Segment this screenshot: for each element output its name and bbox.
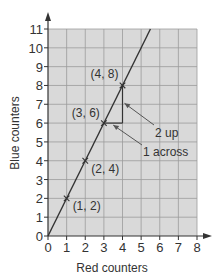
y-tick-label: 9: [36, 60, 43, 75]
point-label: (2, 4): [91, 162, 119, 176]
point-label: (1, 2): [73, 199, 101, 213]
x-tick-label: 5: [138, 240, 145, 255]
x-tick-label: 8: [193, 240, 200, 255]
annotation-2-up: 2 up: [155, 126, 179, 140]
x-tick-label: 4: [119, 240, 126, 255]
y-axis-arrow-icon: [45, 12, 51, 21]
y-tick-label: 6: [36, 116, 43, 131]
x-tick-label: 7: [175, 240, 182, 255]
x-axis-label: Red counters: [76, 261, 147, 275]
annotation-1-across: 1 across: [143, 145, 188, 159]
y-tick-label: 10: [29, 41, 43, 56]
y-tick-label: 7: [36, 97, 43, 112]
x-tick-label: 0: [44, 240, 51, 255]
y-tick-label: 4: [36, 154, 43, 169]
y-tick-label: 11: [30, 22, 44, 37]
point-label: (4, 8): [90, 67, 118, 81]
line-chart: 01234567801234567891011 (1, 2)(2, 4)(3, …: [0, 0, 218, 280]
y-axis-label: Blue counters: [8, 96, 22, 169]
x-tick-label: 3: [100, 240, 107, 255]
x-axis-arrow-icon: [203, 233, 212, 239]
y-tick-label: 8: [36, 78, 43, 93]
y-tick-label: 0: [36, 229, 43, 244]
y-tick-label: 1: [36, 210, 43, 225]
y-tick-label: 2: [36, 191, 43, 206]
x-tick-label: 2: [82, 240, 89, 255]
y-tick-label: 3: [36, 173, 43, 188]
x-tick-label: 6: [156, 240, 163, 255]
y-tick-label: 5: [36, 135, 43, 150]
point-label: (3, 6): [72, 106, 100, 120]
x-tick-label: 1: [63, 240, 70, 255]
